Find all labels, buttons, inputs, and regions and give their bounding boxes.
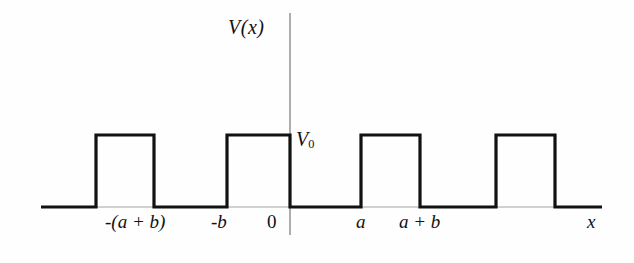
x-axis-label: x [587,212,595,231]
tick-label-origin: 0 [267,212,277,231]
tick-label-a-plus-b: a + b [399,212,440,231]
tick-label-minus-a-plus-b: -(a + b) [105,212,165,231]
barrier-height-symbol: V [296,128,308,150]
potential-diagram-figure: V(x) V0 -(a + b) -b 0 a a + b x [0,0,634,263]
tick-label-minus-b: -b [211,212,227,231]
tick-label-a: a [356,212,366,231]
barrier-height-label: V0 [296,129,314,151]
potential-plot-svg [0,0,634,263]
barrier-height-subscript: 0 [308,137,314,151]
potential-curve [41,135,602,207]
y-axis-label: V(x) [228,17,264,37]
